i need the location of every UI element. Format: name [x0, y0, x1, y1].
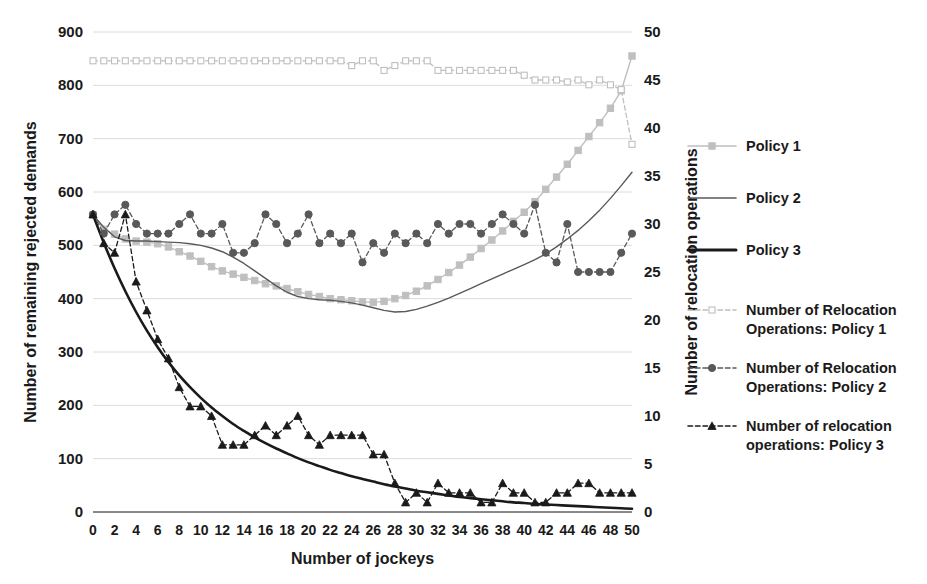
data-point-marker [575, 268, 582, 275]
y-tick-label-left: 500 [58, 236, 83, 253]
data-point-marker [337, 240, 344, 247]
y-tick-label-right: 20 [644, 311, 661, 328]
data-point-marker [488, 220, 495, 227]
legend-item-label-line2: Operations: Policy 2 [746, 379, 886, 395]
legend-item-3[interactable]: Number of RelocationOperations: Policy 1 [688, 302, 897, 337]
legend-item-4[interactable]: Number of RelocationOperations: Policy 2 [688, 360, 897, 395]
data-point-marker [542, 249, 549, 256]
data-point-marker [241, 274, 247, 280]
legend-item-5[interactable]: Number of relocationoperations: Policy 3 [688, 418, 892, 453]
x-tick-label: 16 [258, 522, 274, 538]
x-tick-label: 46 [581, 522, 597, 538]
y-tick-label-right: 15 [644, 359, 661, 376]
data-point-marker [391, 479, 399, 487]
data-point-marker [391, 230, 398, 237]
legend-item-2[interactable]: Policy 3 [688, 242, 801, 258]
legend: Policy 1Policy 2Policy 3Number of Reloca… [688, 138, 897, 453]
data-point-marker [122, 201, 129, 208]
data-point-marker [446, 269, 452, 275]
x-tick-label: 14 [236, 522, 252, 538]
data-point-marker [209, 58, 215, 64]
data-point-marker [143, 306, 151, 314]
data-point-marker [187, 58, 193, 64]
data-point-marker [543, 186, 549, 192]
data-point-marker [553, 174, 559, 180]
data-point-marker [360, 58, 366, 64]
data-point-marker [489, 237, 495, 243]
y-tick-label-left: 600 [58, 183, 83, 200]
data-point-marker [143, 230, 150, 237]
data-point-marker [240, 249, 247, 256]
data-point-marker [543, 77, 549, 83]
data-point-marker [709, 143, 715, 149]
y-tick-label-left: 800 [58, 76, 83, 93]
x-tick-label: 32 [430, 522, 446, 538]
x-axis-title: Number of jockeys [291, 550, 434, 567]
data-point-marker [521, 209, 527, 215]
data-point-marker [629, 141, 635, 147]
y-axis-title-right: Number of relocation operations [683, 148, 700, 395]
data-point-marker [112, 58, 118, 64]
data-point-marker [500, 67, 506, 73]
data-point-marker [230, 271, 236, 277]
x-tick-label: 24 [344, 522, 360, 538]
legend-item-label: Policy 2 [746, 190, 801, 206]
data-point-marker [197, 230, 204, 237]
data-point-marker [456, 220, 463, 227]
y-tick-label-left: 200 [58, 396, 83, 413]
data-point-marker [349, 63, 355, 69]
data-point-marker [305, 211, 312, 218]
series-line [93, 61, 632, 145]
y-tick-label-left: 400 [58, 290, 83, 307]
data-point-marker [478, 245, 484, 251]
data-point-marker [261, 422, 269, 430]
series-1 [93, 172, 632, 312]
data-point-marker [607, 105, 613, 111]
data-point-marker [607, 82, 613, 88]
data-point-marker [434, 479, 442, 487]
data-point-marker [457, 67, 463, 73]
legend-item-label: Policy 1 [746, 138, 801, 154]
data-point-marker [424, 240, 431, 247]
data-point-marker [381, 298, 387, 304]
y-tick-label-right: 10 [644, 407, 661, 424]
data-point-marker [155, 58, 161, 64]
x-tick-label: 20 [301, 522, 317, 538]
data-point-marker [564, 79, 570, 85]
data-point-marker [326, 431, 334, 439]
y-tick-label-right: 50 [644, 23, 661, 40]
data-point-marker [121, 210, 129, 218]
x-tick-label: 2 [111, 522, 119, 538]
data-point-marker [198, 258, 204, 264]
data-point-marker [133, 58, 139, 64]
data-point-marker [499, 228, 505, 234]
data-point-marker [434, 220, 441, 227]
x-tick-label: 30 [409, 522, 425, 538]
data-point-marker [338, 58, 344, 64]
data-point-marker [477, 230, 484, 237]
data-point-marker [402, 292, 408, 298]
data-point-marker [230, 58, 236, 64]
data-point-marker [176, 220, 183, 227]
data-point-marker [618, 87, 624, 93]
data-point-marker [294, 230, 301, 237]
data-point-marker [295, 58, 301, 64]
data-point-marker [531, 201, 538, 208]
y-tick-label-right: 0 [644, 503, 652, 520]
data-point-marker [708, 364, 715, 371]
data-point-marker [489, 67, 495, 73]
data-point-marker [133, 220, 140, 227]
y-tick-label-left: 700 [58, 130, 83, 147]
data-point-marker [585, 268, 592, 275]
data-point-marker [219, 220, 226, 227]
data-point-marker [520, 489, 528, 497]
data-point-marker [597, 77, 603, 83]
data-point-marker [252, 277, 258, 283]
legend-item-label: Number of Relocation [746, 302, 897, 318]
legend-item-1[interactable]: Policy 2 [688, 190, 801, 206]
data-point-marker [424, 58, 430, 64]
data-point-marker [575, 77, 581, 83]
data-point-marker [370, 240, 377, 247]
series-5 [89, 210, 636, 506]
legend-item-0[interactable]: Policy 1 [688, 138, 801, 154]
